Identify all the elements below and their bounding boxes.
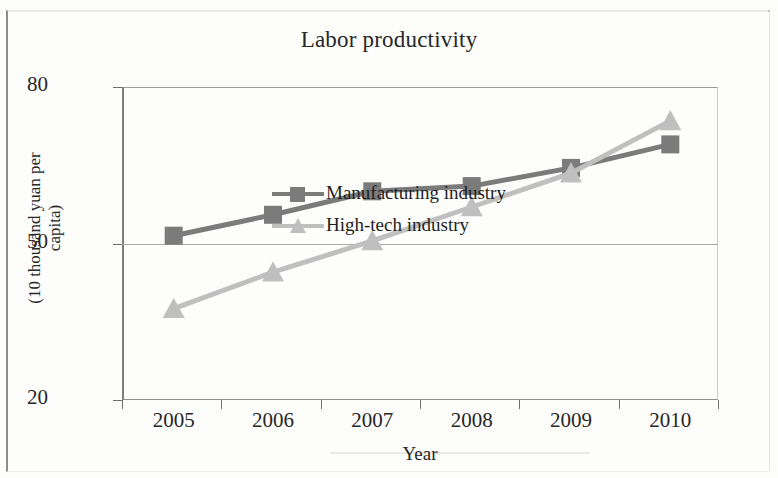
legend-swatch-high-tech [272, 215, 324, 235]
legend-label-manufacturing: Manufacturing industry [324, 182, 506, 204]
y-tick-label: 50 [0, 229, 48, 254]
x-tick-mark [321, 400, 322, 409]
chart-figure: Labor productivity (10 thousand yuan per… [0, 0, 778, 478]
legend-square-marker-icon [290, 187, 305, 202]
y-tick-mark [113, 400, 122, 401]
x-tick-label: 2008 [427, 408, 517, 433]
x-tick-mark [619, 400, 620, 409]
x-axis-label: Year [122, 443, 718, 465]
scan-artifact [8, 10, 768, 12]
x-tick-label: 2009 [526, 408, 616, 433]
y-tick-label: 80 [0, 72, 48, 97]
data-point-triangle [659, 110, 681, 130]
data-point-square [165, 227, 183, 245]
y-axis-label-line2: capita) [45, 152, 65, 304]
y-tick-mark [113, 244, 122, 245]
plot-area: Manufacturing industry High-tech industr… [122, 87, 718, 400]
legend-triangle-marker-icon [290, 218, 306, 233]
x-tick-label: 2007 [327, 408, 417, 433]
series-layer [122, 87, 718, 400]
legend-item-manufacturing: Manufacturing industry [272, 177, 542, 209]
chart-legend: Manufacturing industry High-tech industr… [272, 177, 542, 241]
x-tick-mark [519, 400, 520, 409]
legend-item-high-tech: High-tech industry [272, 209, 542, 241]
x-tick-mark [221, 400, 222, 409]
data-point-square [661, 135, 679, 153]
y-tick-mark [113, 87, 122, 88]
y-tick-label: 20 [0, 385, 48, 410]
legend-label-high-tech: High-tech industry [324, 214, 469, 236]
x-tick-mark [420, 400, 421, 409]
legend-swatch-manufacturing [272, 183, 324, 203]
x-tick-label: 2006 [228, 408, 318, 433]
x-tick-label: 2010 [625, 408, 715, 433]
x-tick-mark [718, 400, 719, 409]
x-tick-label: 2005 [129, 408, 219, 433]
x-tick-mark [122, 400, 123, 409]
chart-title: Labor productivity [0, 27, 778, 53]
